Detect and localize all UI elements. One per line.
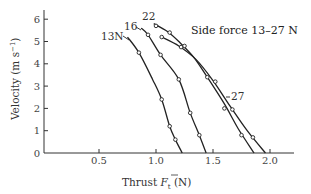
data-point-marker — [240, 133, 244, 137]
curve-13n — [128, 37, 183, 153]
y-tick-label: 2 — [34, 103, 40, 114]
data-point-marker — [154, 24, 158, 28]
curve-label-13n: 13N — [101, 30, 124, 42]
data-point-marker — [174, 138, 178, 142]
curve-label-27: 27 — [231, 90, 244, 102]
data-point-marker — [168, 124, 172, 128]
data-point-marker — [168, 31, 172, 35]
x-tick-label: 1.0 — [148, 155, 164, 166]
y-tick-label: 6 — [34, 14, 40, 25]
data-point-marker — [188, 111, 192, 115]
data-point-marker — [179, 45, 183, 49]
y-tick-label: 3 — [34, 81, 40, 92]
data-point-marker — [251, 136, 255, 140]
y-tick-label: 1 — [34, 125, 40, 136]
curve-22 — [154, 24, 254, 153]
x-tick-label: 2.0 — [262, 155, 278, 166]
data-point-marker — [159, 53, 163, 57]
curves — [123, 24, 265, 153]
data-point-marker — [160, 98, 164, 102]
x-tick-label: 0.5 — [91, 155, 107, 166]
y-tick-label: 5 — [34, 36, 40, 47]
data-point-marker — [146, 33, 150, 37]
curve-16 — [141, 28, 206, 153]
curve-label-16: 16 — [124, 20, 138, 32]
y-tick-label: 4 — [34, 58, 40, 69]
x-axis-label: Thrust Ft (N) — [122, 176, 191, 191]
curve-label-22: 22 — [142, 10, 155, 22]
chart-title: Side force 13–27 N — [191, 24, 298, 37]
data-point-marker — [137, 51, 141, 55]
data-point-marker — [223, 107, 227, 111]
data-point-marker — [231, 108, 235, 112]
data-point-marker — [177, 78, 181, 82]
data-point-marker — [213, 80, 217, 84]
x-tick-label: 1.5 — [205, 155, 221, 166]
data-point-marker — [206, 75, 210, 79]
data-point-marker — [198, 133, 202, 137]
y-tick-label: 0 — [34, 148, 40, 159]
y-axis-label: Velocity (m s−1) — [9, 38, 21, 121]
velocity-thrust-chart: 0.51.01.52.00123456 Side force 13–27 N 1… — [0, 0, 311, 194]
data-point-marker — [160, 35, 164, 39]
curve-27 — [162, 37, 266, 153]
